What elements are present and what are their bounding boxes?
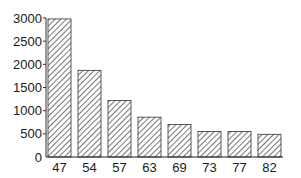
y-tick-label: 1000 (13, 103, 42, 118)
bar-57 (108, 100, 131, 157)
bar-82 (258, 134, 281, 157)
bar-54 (78, 70, 101, 157)
y-tick-label: 1500 (13, 80, 42, 95)
x-tick-label: 73 (202, 160, 216, 175)
bar-69 (168, 125, 191, 157)
bars (48, 19, 281, 157)
x-axis: 4754576369737782 (46, 157, 283, 175)
y-tick-label: 500 (20, 126, 42, 141)
y-tick-label: 3000 (13, 11, 42, 26)
bar-chart: 050010001500200025003000 475457636973778… (0, 0, 301, 178)
bar-77 (228, 132, 251, 157)
bar-47 (48, 19, 71, 157)
x-tick-label: 63 (142, 160, 156, 175)
x-tick-label: 47 (52, 160, 66, 175)
x-tick-label: 54 (82, 160, 96, 175)
y-tick-label: 2000 (13, 57, 42, 72)
bar-63 (138, 117, 161, 157)
y-tick-label: 2500 (13, 34, 42, 49)
x-tick-label: 82 (262, 160, 276, 175)
y-axis: 050010001500200025003000 (13, 11, 46, 165)
x-tick-label: 69 (172, 160, 186, 175)
y-tick-label: 0 (35, 150, 42, 165)
x-tick-label: 77 (232, 160, 246, 175)
bar-73 (198, 132, 221, 157)
x-tick-label: 57 (112, 160, 126, 175)
